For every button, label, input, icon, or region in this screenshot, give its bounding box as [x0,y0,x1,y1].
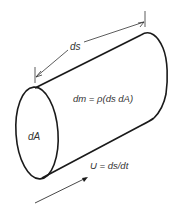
velocity-label: U = ds/dt [90,160,129,171]
arrowhead-icon [82,177,88,182]
arrowhead-left-icon [36,71,42,77]
arrowhead-right-icon [138,22,144,27]
length-label: ds [70,41,81,52]
cylinder [13,33,167,181]
area-label: dA [28,131,41,142]
dimension-line-right [84,22,144,42]
cylinder-top-edge [35,35,141,88]
dimension-line-left [36,50,68,77]
length-dimension [35,11,145,83]
cylinder-right-end [141,33,167,118]
stream-tube-diagram: ds dA dm = ρ(ds dA) U = ds/dt [0,0,176,217]
mass-label: dm = ρ(ds dA) [73,93,133,104]
velocity-arrow [35,177,88,203]
